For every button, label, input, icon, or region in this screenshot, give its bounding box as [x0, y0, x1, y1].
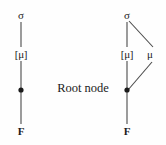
right-tree-sigma-label: σ [124, 10, 130, 21]
tree-diagram-figure: σ [μ] F σ [μ] μ F Root node [0, 0, 166, 145]
right-tree-bracketed-mu-label: [μ] [121, 49, 134, 60]
tree-edges-layer [0, 0, 166, 145]
edge-right-mu-to-root [128, 62, 152, 90]
right-tree-leaf-label: F [124, 126, 131, 137]
left-tree-leaf-label: F [18, 126, 25, 137]
left-tree-sigma-label: σ [18, 10, 24, 21]
root-node-dot-left [18, 87, 23, 92]
right-tree-mu-label: μ [147, 49, 153, 60]
root-node-caption: Root node [57, 82, 109, 95]
left-tree-bracketed-mu-label: [μ] [15, 49, 28, 60]
root-node-dot-right [124, 87, 129, 92]
edge-right-sigma-to-mu [129, 21, 153, 47]
